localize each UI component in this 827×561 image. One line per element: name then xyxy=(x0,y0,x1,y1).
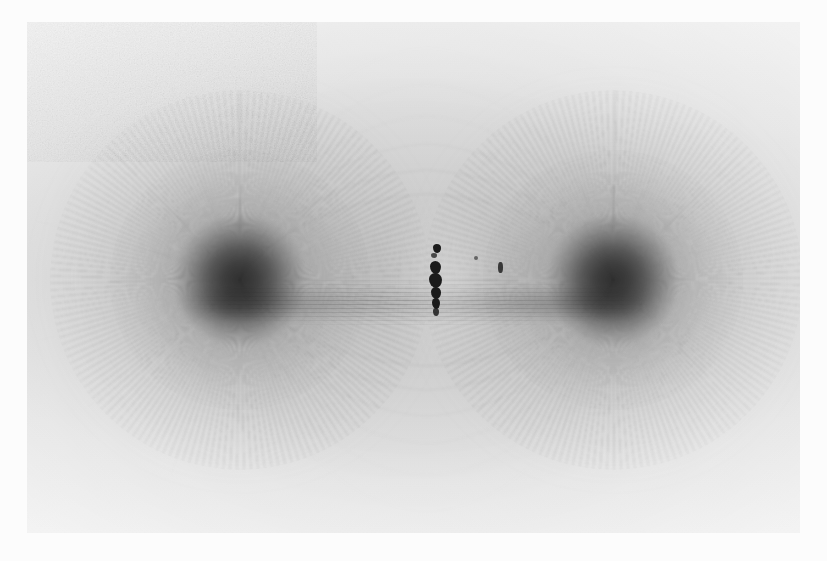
filing-fragment xyxy=(429,273,442,288)
photo-page xyxy=(0,0,827,561)
filing-fragment xyxy=(431,253,437,258)
field-pattern-photograph xyxy=(27,22,800,533)
stray-filing-speck-small xyxy=(474,256,478,260)
film-grain-light xyxy=(27,22,317,162)
neutral-point-filing-clump xyxy=(425,244,447,318)
filing-fragment xyxy=(433,308,439,316)
stray-filing-speck xyxy=(498,262,503,273)
filing-fragment xyxy=(433,244,441,253)
